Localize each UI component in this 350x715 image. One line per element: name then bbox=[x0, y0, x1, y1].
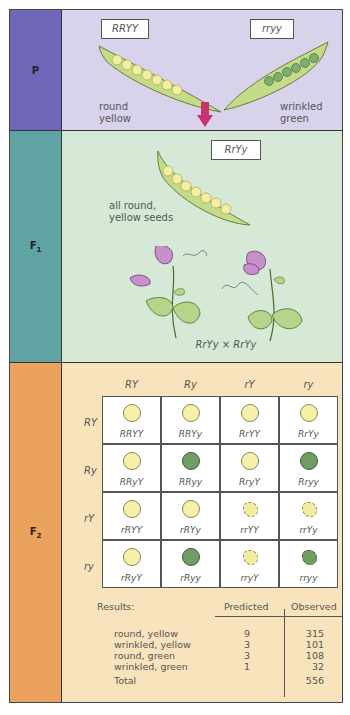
cell-genotype: RrYy bbox=[280, 429, 337, 439]
wrinkled-yellow-seed-icon bbox=[302, 502, 317, 517]
predicted-header: Predicted bbox=[224, 601, 269, 612]
cell-genotype: rRYy bbox=[162, 525, 219, 535]
f1-generation-band: F1 RrYy all round, yellow seeds bbox=[10, 131, 342, 363]
column-divider bbox=[284, 609, 285, 697]
wrinkled-yellow-seed-icon bbox=[243, 502, 258, 517]
p-generation-band: P RRYY rryy round yellow bbox=[10, 10, 342, 131]
predicted-value: 3 bbox=[242, 639, 252, 650]
p-generation-content: RRYY rryy round yellow bbox=[62, 10, 342, 130]
f1-label-text: F1 bbox=[30, 240, 42, 254]
cell-genotype: rrYy bbox=[280, 525, 337, 535]
punnett-cell: RRYY bbox=[102, 396, 161, 444]
round-yellow-seed-icon bbox=[182, 500, 200, 518]
cell-genotype: rRYY bbox=[103, 525, 160, 535]
round-yellow-seed-icon bbox=[123, 500, 141, 518]
punnett-cell: rRyY bbox=[102, 540, 161, 588]
punnett-cell: RrYy bbox=[279, 396, 338, 444]
f1-generation-label: F1 bbox=[10, 131, 62, 362]
punnett-cell: rrYY bbox=[220, 492, 279, 540]
f1-cross-label: RrYy × RrYy bbox=[176, 339, 276, 351]
observed-value: 101 bbox=[306, 639, 324, 650]
f2-generation-band: F2 RY Ry rY ry RY Ry rY ry RRYY RRYy RrY… bbox=[10, 363, 342, 702]
predicted-value: 1 bbox=[242, 661, 252, 672]
f1-description: all round, yellow seeds bbox=[109, 200, 173, 224]
parent2-phenotype-line2: green bbox=[280, 113, 322, 125]
round-yellow-seed-icon bbox=[241, 452, 259, 470]
round-yellow-seed-icon bbox=[300, 404, 318, 422]
cell-genotype: Rryy bbox=[280, 477, 337, 487]
phenotype-label: wrinkled, green bbox=[114, 661, 188, 672]
punnett-cell: RRYy bbox=[161, 396, 220, 444]
dihybrid-cross-diagram: P RRYY rryy round yellow bbox=[9, 9, 343, 703]
round-green-seed-icon bbox=[182, 452, 200, 470]
column-gamete-Ry: Ry bbox=[161, 379, 220, 390]
f1-generation-content: RrYy all round, yellow seeds bbox=[62, 131, 342, 362]
round-yellow-seed-icon bbox=[241, 404, 259, 422]
punnett-square: RRYY RRYy RrYY RrYy RRyY RRyy RryY Rryy … bbox=[102, 396, 338, 588]
wrinkled-yellow-seed-icon bbox=[243, 550, 258, 565]
punnett-cell: RRyy bbox=[161, 444, 220, 492]
observed-header: Observed bbox=[291, 601, 337, 612]
row-gamete-rY: rY bbox=[84, 513, 104, 524]
f1-description-line1: all round, bbox=[109, 200, 173, 212]
parent2-genotype-box: rryy bbox=[250, 19, 294, 39]
round-yellow-seed-icon bbox=[182, 404, 200, 422]
total-observed-value: 556 bbox=[306, 675, 324, 686]
cell-genotype: RRyY bbox=[103, 477, 160, 487]
results-table: Results: Predicted Observed round, yello… bbox=[62, 601, 344, 701]
phenotype-label: round, green bbox=[114, 650, 175, 661]
round-yellow-seed-icon bbox=[123, 548, 141, 566]
p-generation-label: P bbox=[10, 10, 62, 130]
punnett-cell: rRYy bbox=[161, 492, 220, 540]
p-label-text: P bbox=[32, 65, 39, 76]
column-gamete-rY: rY bbox=[220, 379, 279, 390]
f1-label-subscript: 1 bbox=[36, 246, 41, 254]
round-yellow-seed-icon bbox=[123, 404, 141, 422]
round-green-seed-icon bbox=[182, 548, 200, 566]
punnett-cell: rRyy bbox=[161, 540, 220, 588]
cell-genotype: rryy bbox=[280, 573, 337, 583]
punnett-cell: rrYy bbox=[279, 492, 338, 540]
wrinkled-green-seed-icon bbox=[302, 550, 317, 565]
parent1-phenotype-line2: yellow bbox=[99, 113, 131, 125]
cell-genotype: rrYY bbox=[221, 525, 278, 535]
cell-genotype: RrYY bbox=[221, 429, 278, 439]
punnett-cell: RryY bbox=[220, 444, 279, 492]
parent2-phenotype: wrinkled green bbox=[280, 101, 322, 125]
cell-genotype: RryY bbox=[221, 477, 278, 487]
cell-genotype: RRyy bbox=[162, 477, 219, 487]
punnett-cell: rryy bbox=[279, 540, 338, 588]
cell-genotype: RRYy bbox=[162, 429, 219, 439]
pea-plant-right-icon bbox=[220, 249, 320, 344]
punnett-cell: RrYY bbox=[220, 396, 279, 444]
observed-value: 315 bbox=[306, 628, 324, 639]
column-gamete-ry: ry bbox=[279, 379, 338, 390]
round-yellow-seed-icon bbox=[123, 452, 141, 470]
parent1-genotype-box: RRYY bbox=[101, 19, 149, 39]
total-label: Total bbox=[114, 675, 136, 686]
cell-genotype: rRyy bbox=[162, 573, 219, 583]
punnett-cell: RRyY bbox=[102, 444, 161, 492]
observed-value: 32 bbox=[312, 661, 324, 672]
parent1-phenotype: round yellow bbox=[99, 101, 131, 125]
down-arrow-icon bbox=[197, 102, 213, 128]
cell-genotype: rryY bbox=[221, 573, 278, 583]
f2-generation-label: F2 bbox=[10, 363, 62, 702]
punnett-cell: rRYY bbox=[102, 492, 161, 540]
parent1-phenotype-line1: round bbox=[99, 101, 131, 113]
predicted-value: 3 bbox=[242, 650, 252, 661]
f1-description-line2: yellow seeds bbox=[109, 212, 173, 224]
f2-generation-content: RY Ry rY ry RY Ry rY ry RRYY RRYy RrYY R… bbox=[62, 363, 342, 702]
pea-plant-left-icon bbox=[128, 246, 228, 341]
round-green-seed-icon bbox=[300, 452, 318, 470]
cell-genotype: RRYY bbox=[103, 429, 160, 439]
results-title: Results: bbox=[97, 601, 135, 612]
f2-label-subscript: 2 bbox=[36, 532, 41, 540]
f2-label-text: F2 bbox=[30, 526, 42, 540]
phenotype-label: round, yellow bbox=[114, 628, 178, 639]
header-divider bbox=[215, 616, 343, 617]
punnett-cell: Rryy bbox=[279, 444, 338, 492]
cell-genotype: rRyY bbox=[103, 573, 160, 583]
row-gamete-ry: ry bbox=[84, 561, 104, 572]
row-gamete-Ry: Ry bbox=[84, 465, 104, 476]
